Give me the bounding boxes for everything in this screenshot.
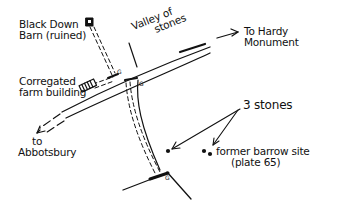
- label-line: farm building: [19, 87, 86, 98]
- gate-marker-south: G: [165, 175, 170, 181]
- label-line: Monument: [244, 37, 299, 48]
- gate-marker-side-track: G: [139, 81, 144, 87]
- gate-side-track: [125, 78, 137, 80]
- label-corrugated-farm-building: Corregated farm building: [19, 76, 86, 98]
- arrow-3-stones-to-barrow: [213, 110, 238, 145]
- label-line: Barn (ruined): [19, 30, 86, 41]
- barrow-stone-1: [202, 149, 206, 153]
- arrow-to-hardy-monument: [217, 32, 238, 38]
- sketch-map: Black Down Barn (ruined) Valley of stone…: [0, 0, 341, 213]
- label-line: Abbotsbury: [18, 147, 76, 158]
- south-track-solid: [138, 80, 160, 170]
- label-to-abbotsbury: to Abbotsbury: [18, 136, 76, 158]
- stone-marker: [166, 149, 170, 153]
- gate-marker-barn: G: [117, 69, 122, 75]
- label-black-down-barn: Black Down Barn (ruined): [19, 19, 86, 41]
- southern-road-continue: [167, 172, 191, 199]
- label-former-barrow-site: former barrow site (plate 65): [216, 146, 310, 168]
- road-to-abbotsbury-dashed: [40, 114, 60, 128]
- valley-pointer-line: [129, 43, 137, 67]
- arrow-3-stones-to-track: [172, 109, 240, 149]
- label-to-hardy-monument: To Hardy Monument: [244, 26, 299, 48]
- label-line: (plate 65): [216, 157, 310, 168]
- barrow-stone-2: [208, 152, 212, 156]
- label-three-stones: 3 stones: [243, 100, 292, 111]
- barn-track-dashed: [90, 27, 112, 75]
